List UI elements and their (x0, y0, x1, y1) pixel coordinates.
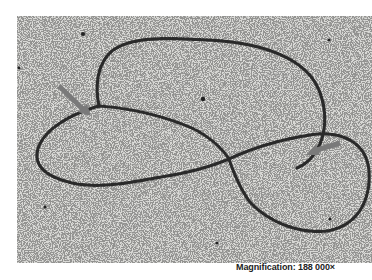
magnification-caption: Magnification: 188 000× (236, 262, 335, 272)
speckle-texture (17, 16, 372, 263)
micrograph-image (17, 16, 372, 263)
micrograph-svg (17, 16, 372, 263)
